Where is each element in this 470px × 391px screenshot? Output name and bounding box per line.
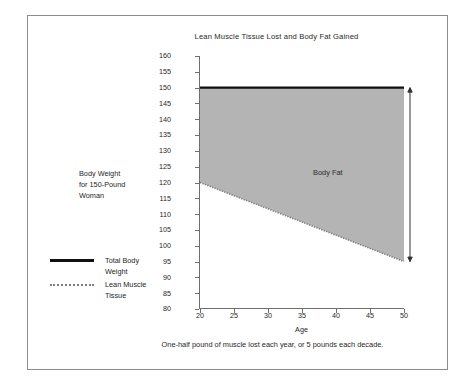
y-tick-label: 80	[149, 305, 171, 312]
x-tick-mark	[268, 309, 269, 313]
y-tick-mark	[195, 277, 199, 278]
body-fat-area	[200, 88, 404, 262]
y-tick-label: 135	[149, 131, 171, 138]
x-tick-label: 35	[287, 312, 317, 319]
y-tick-label: 85	[149, 290, 171, 297]
y-tick-label: 95	[149, 258, 171, 265]
y-tick-mark	[195, 214, 199, 215]
x-tick-label: 25	[219, 312, 249, 319]
y-tick-mark	[195, 72, 199, 73]
figure-frame: Lean Muscle Tissue Lost and Body Fat Gai…	[27, 15, 448, 370]
legend-label-line-2: Tissue	[105, 291, 126, 300]
legend-label-line-1: Lean Muscle	[105, 280, 146, 289]
y-tick-mark	[195, 56, 199, 57]
x-tick-mark	[336, 309, 337, 313]
y-tick-label: 140	[149, 116, 171, 123]
x-tick-label: 50	[389, 312, 419, 319]
body-fat-range-arrow	[408, 88, 412, 262]
y-tick-mark	[195, 246, 199, 247]
y-tick-mark	[195, 88, 199, 89]
chart-title: Lean Muscle Tissue Lost and Body Fat Gai…	[28, 32, 447, 41]
y-tick-mark	[195, 230, 199, 231]
y-tick-label: 100	[149, 242, 171, 249]
legend-label-line-2: Weight	[105, 267, 128, 276]
x-tick-label: 20	[185, 312, 215, 319]
x-tick-label: 45	[355, 312, 385, 319]
x-tick-mark	[404, 309, 405, 313]
y-tick-mark	[195, 167, 199, 168]
plot-area: 8085909510010511011512012513013514014515…	[173, 56, 404, 321]
body-fat-area-label: Body Fat	[313, 168, 343, 177]
y-tick-mark	[195, 198, 199, 199]
y-tick-mark	[195, 135, 199, 136]
y-tick-mark	[195, 293, 199, 294]
series-plot	[200, 56, 404, 309]
y-tick-label: 145	[149, 100, 171, 107]
legend-label-line-1: Total Body	[105, 256, 139, 265]
y-tick-label: 105	[149, 226, 171, 233]
y-tick-label: 155	[149, 68, 171, 75]
y-tick-label: 125	[149, 163, 171, 170]
y-tick-label: 110	[149, 211, 171, 218]
x-tick-mark	[234, 309, 235, 313]
x-tick-label: 40	[321, 312, 351, 319]
y-tick-mark	[195, 119, 199, 120]
x-tick-mark	[302, 309, 303, 313]
y-tick-label: 130	[149, 147, 171, 154]
y-tick-mark	[195, 262, 199, 263]
legend-solid-line-icon	[50, 259, 94, 262]
y-tick-mark	[195, 151, 199, 152]
y-tick-label: 150	[149, 84, 171, 91]
x-tick-label: 30	[253, 312, 283, 319]
y-tick-mark	[195, 309, 199, 310]
y-tick-label: 120	[149, 179, 171, 186]
x-tick-mark	[370, 309, 371, 313]
y-tick-mark	[195, 103, 199, 104]
y-tick-label: 160	[149, 52, 171, 59]
legend-dotted-line-icon	[50, 284, 94, 286]
y-tick-mark	[195, 183, 199, 184]
x-tick-mark	[200, 309, 201, 313]
x-axis-title: Age	[199, 325, 404, 334]
y-tick-label: 115	[149, 195, 171, 202]
y-tick-label: 90	[149, 274, 171, 281]
figure-caption: One-half pound of muscle lost each year,…	[28, 340, 447, 349]
